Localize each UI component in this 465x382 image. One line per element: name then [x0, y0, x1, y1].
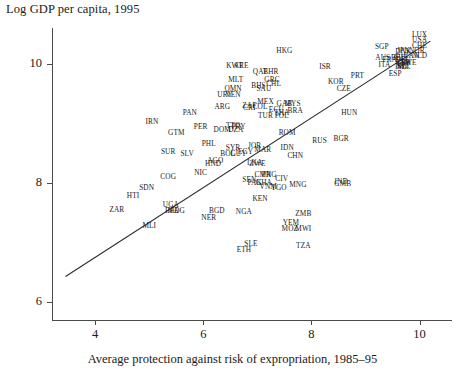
data-point-hnd: HND — [205, 161, 221, 168]
x-tick-mark — [95, 320, 96, 325]
y-tick-label-10: 10 — [16, 57, 42, 70]
data-point-zmb: ZMB — [295, 210, 311, 217]
data-point-per: PER — [194, 123, 208, 130]
data-point-slv: SLV — [180, 151, 193, 158]
y-tick-label-8: 8 — [16, 176, 42, 189]
data-point-nic: NIC — [194, 169, 207, 176]
data-point-cri: CRI — [243, 104, 255, 111]
data-point-tur: TUR — [258, 113, 273, 120]
data-point-hti: HTI — [127, 192, 139, 199]
data-point-ner: NER — [201, 214, 216, 221]
data-point-bra: BRA — [288, 108, 303, 115]
data-point-irn: IRN — [146, 118, 159, 125]
data-point-chn: CHN — [287, 152, 303, 159]
y-tick-mark — [47, 183, 52, 184]
x-tick-label-6: 6 — [188, 328, 218, 341]
data-point-hun: HUN — [341, 109, 357, 116]
data-point-zar: ZAR — [109, 206, 124, 213]
data-point-are: ARE — [234, 62, 249, 69]
data-point-sgp: SGP — [375, 43, 389, 50]
data-point-ven: VEN — [225, 92, 240, 99]
data-point-esp: ESP — [389, 71, 402, 78]
x-tick-mark — [311, 320, 312, 325]
x-tick-mark — [420, 320, 421, 325]
data-point-eth: ETH — [237, 246, 251, 253]
data-point-tza: TZA — [296, 242, 310, 249]
x-axis — [52, 320, 452, 321]
x-tick-label-8: 8 — [296, 328, 326, 341]
x-axis-title: Average protection against risk of expro… — [0, 352, 465, 367]
x-tick-label-10: 10 — [405, 328, 435, 341]
data-point-rom: ROM — [279, 129, 296, 136]
data-point-pol: POL — [275, 113, 289, 120]
data-point-arg: ARG — [214, 103, 230, 110]
data-point-cog: COG — [160, 173, 176, 180]
data-point-dom: DOM — [214, 126, 231, 133]
y-tick-mark — [47, 302, 52, 303]
data-point-mng: MNG — [289, 182, 306, 189]
data-point-mar: MAR — [254, 146, 271, 153]
data-point-tgo: TGO — [271, 184, 286, 191]
x-tick-mark — [203, 320, 204, 325]
y-tick-mark — [47, 64, 52, 65]
data-point-mlt: MLT — [228, 77, 243, 84]
data-point-mli: MLI — [142, 222, 156, 229]
data-point-cze: CZE — [337, 86, 351, 93]
plot-area: 681046810 LUXUSACHENORHKGSGPJPNDNKNLDCAN… — [52, 28, 452, 320]
data-point-mdg: MDG — [168, 207, 185, 214]
data-point-prt: PRT — [351, 72, 364, 79]
data-point-bgr: BGR — [334, 136, 349, 143]
data-point-rus: RUS — [312, 137, 327, 144]
data-point-bhr: BHR — [263, 68, 278, 75]
y-tick-label-6: 6 — [16, 295, 42, 308]
data-point-mwi: MWI — [295, 226, 311, 233]
data-point-zwe: ZWE — [249, 161, 265, 168]
data-point-sdn: SDN — [139, 184, 154, 191]
data-point-pan: PAN — [183, 109, 197, 116]
data-point-phl: PHL — [202, 141, 216, 148]
x-tick-label-4: 4 — [80, 328, 110, 341]
data-point-ita: ITA — [378, 61, 390, 68]
data-point-sau: SAU — [256, 85, 271, 92]
scatter-plot-figure: Log GDP per capita, 1995 681046810 LUXUS… — [0, 0, 465, 382]
chart-title: Log GDP per capita, 1995 — [6, 2, 140, 17]
data-point-egy: EGY — [238, 148, 253, 155]
data-point-ken: KEN — [252, 195, 267, 202]
data-point-nga: NGA — [236, 208, 252, 215]
data-point-sur: SUR — [161, 148, 176, 155]
data-point-gmb: GMB — [334, 180, 351, 187]
data-point-isr: ISR — [319, 63, 331, 70]
data-point-civ: CIV — [275, 176, 288, 183]
data-point-gtm: GTM — [168, 129, 185, 136]
data-point-hkg: HKG — [276, 47, 292, 54]
